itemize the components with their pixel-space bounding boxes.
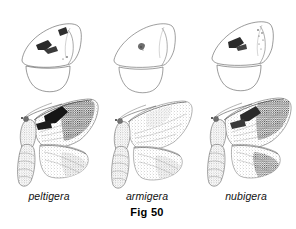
specimen-group-peltigera — [18, 24, 99, 186]
taxon-label-row: peltigera armigera nubigera — [0, 190, 296, 206]
figure-plate: peltigera armigera nubigera Fig 50 — [0, 0, 296, 229]
moth-habitus-armigera — [112, 101, 193, 188]
moth-habitus-peltigera — [18, 99, 99, 186]
specimen-group-nubigera — [208, 22, 292, 186]
figure-number-caption: Fig 50 — [98, 206, 196, 218]
taxon-label-peltigera: peltigera — [0, 190, 98, 202]
moth-habitus-nubigera — [208, 98, 292, 186]
wing-outline-diagram-peltigera — [22, 24, 81, 92]
specimen-group-armigera — [112, 24, 193, 188]
wing-outline-diagram-armigera — [114, 24, 175, 93]
taxon-label-armigera: armigera — [98, 190, 196, 202]
wing-outline-diagram-nubigera — [212, 22, 273, 91]
taxon-label-nubigera: nubigera — [196, 190, 296, 202]
